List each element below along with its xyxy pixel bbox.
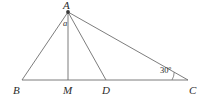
angle-label-alpha: a — [63, 19, 67, 28]
vertex-label-m: M — [63, 85, 72, 96]
segment-cevian-ad — [68, 12, 106, 80]
vertex-label-a: A — [63, 0, 70, 11]
vertex-label-b: B — [13, 85, 20, 96]
segment-side-ab — [22, 12, 68, 80]
vertex-label-c: C — [189, 85, 196, 96]
angle-arc-c-icon — [172, 72, 174, 80]
vertex-label-d: D — [102, 85, 110, 96]
geometry-figure: A B M D C a 30º — [0, 0, 204, 104]
angle-label-30-degrees: 30º — [160, 66, 171, 75]
